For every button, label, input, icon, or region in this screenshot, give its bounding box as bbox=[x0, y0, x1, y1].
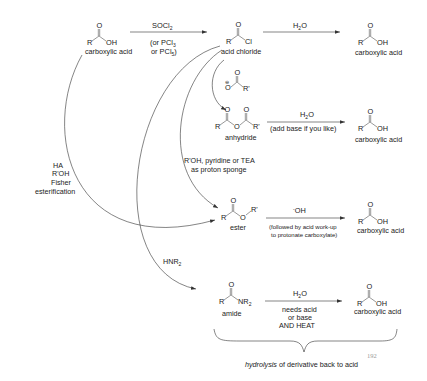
svg-text:O: O bbox=[244, 105, 250, 114]
svg-text:carboxylic acid: carboxylic acid bbox=[355, 135, 402, 144]
amide-note-3: AND HEAT bbox=[279, 321, 315, 330]
svg-text:R': R' bbox=[253, 122, 260, 131]
svg-text:R: R bbox=[358, 38, 363, 47]
page-number: 192 bbox=[367, 352, 377, 359]
svg-text:R': R' bbox=[243, 84, 250, 93]
svg-text:O: O bbox=[229, 280, 235, 289]
svg-text:OH: OH bbox=[377, 124, 388, 133]
curly-brace bbox=[214, 329, 397, 352]
amide: R O NR2 amide bbox=[219, 280, 252, 318]
carboxylic-acid-start: R O OH carboxylic acid bbox=[85, 21, 132, 56]
svg-text:⊖: ⊖ bbox=[225, 79, 229, 85]
reagent-fisher-label: Fisher bbox=[51, 178, 72, 187]
reagent-fisher-esterification: esterification bbox=[35, 187, 75, 196]
svg-text:O: O bbox=[225, 105, 231, 114]
label-anhydride: anhydride bbox=[225, 133, 257, 142]
arrow-chloride-to-anhydride bbox=[212, 60, 226, 110]
svg-text:carboxylic acid: carboxylic acid bbox=[354, 307, 401, 316]
arrow-fisher-esterification bbox=[65, 55, 215, 227]
svg-text:O: O bbox=[240, 213, 246, 222]
svg-text:O: O bbox=[235, 68, 241, 77]
reagent-h2o-chloride: H2O bbox=[293, 21, 307, 31]
anhydride-note: (add base if you like) bbox=[270, 124, 336, 133]
svg-text:R: R bbox=[221, 213, 226, 222]
reaction-diagram: R O OH carboxylic acid SOCl2 (or PCl3 or… bbox=[0, 0, 427, 381]
svg-text:R: R bbox=[87, 38, 92, 47]
svg-text:R: R bbox=[215, 122, 220, 131]
label-acid-chloride: acid chloride bbox=[221, 47, 261, 56]
label-carboxylic-acid-start: carboxylic acid bbox=[85, 47, 132, 56]
svg-text:carboxylic acid: carboxylic acid bbox=[357, 226, 404, 235]
reagent-proton-sponge: as proton sponge bbox=[191, 165, 247, 174]
ester: R O O R' ester bbox=[221, 196, 258, 232]
svg-text:O: O bbox=[234, 122, 240, 131]
ester-note-1: (followed by acid work-up bbox=[269, 224, 337, 230]
anhydride: R O O O R' anhydride bbox=[215, 105, 260, 142]
carboxylic-acid-from-amide: R O OH carboxylic acid bbox=[354, 282, 401, 316]
carboxylic-acid-from-ester: R O OH carboxylic acid bbox=[357, 200, 404, 235]
carboxylic-acid-from-chloride: R O OH carboxylic acid bbox=[355, 21, 402, 57]
svg-text:O: O bbox=[231, 196, 237, 205]
reagent-pcl5: or PCl5) bbox=[151, 47, 177, 57]
reagent-amine: HNR2 bbox=[163, 257, 182, 267]
svg-text:O: O bbox=[367, 282, 373, 291]
svg-text:R: R bbox=[219, 297, 224, 306]
svg-text:OH: OH bbox=[106, 38, 117, 47]
svg-text:O: O bbox=[368, 21, 374, 30]
reagent-socl2: SOCl2 bbox=[152, 21, 173, 31]
reagent-fisher-roh: R'OH bbox=[52, 169, 69, 178]
svg-text:OH: OH bbox=[377, 217, 388, 226]
svg-text:NR2: NR2 bbox=[238, 297, 252, 307]
svg-text:O: O bbox=[368, 107, 374, 116]
carboxylic-acid-from-anhydride: R O OH carboxylic acid bbox=[355, 107, 402, 144]
reagent-h2o-anhydride: H2O bbox=[300, 110, 314, 120]
svg-text:Cl: Cl bbox=[245, 37, 252, 46]
reagent-hydroxide: -OH bbox=[293, 206, 306, 215]
label-ester: ester bbox=[230, 223, 247, 232]
svg-text:R': R' bbox=[251, 205, 258, 214]
caption: hydrolysis of derivative back to acid bbox=[245, 360, 358, 369]
svg-text:R: R bbox=[358, 124, 363, 133]
svg-text:O: O bbox=[368, 200, 374, 209]
svg-text:carboxylic acid: carboxylic acid bbox=[355, 48, 402, 57]
svg-text:R: R bbox=[226, 37, 231, 46]
ester-note-2: to protonate carboxylate) bbox=[271, 232, 337, 238]
svg-text:O: O bbox=[97, 21, 103, 30]
label-amide: amide bbox=[222, 309, 242, 318]
svg-text:OH: OH bbox=[377, 38, 388, 47]
svg-text:R: R bbox=[358, 217, 363, 226]
reagent-alcohol-pyridine: R'OH, pyridine or TEA bbox=[184, 156, 255, 165]
reagent-h2o-amide: H2O bbox=[293, 289, 307, 299]
acid-chloride: R O Cl acid chloride bbox=[221, 20, 261, 56]
svg-text:O: O bbox=[236, 20, 242, 29]
carboxylate-reagent: O ⊖ O R' bbox=[225, 68, 250, 93]
